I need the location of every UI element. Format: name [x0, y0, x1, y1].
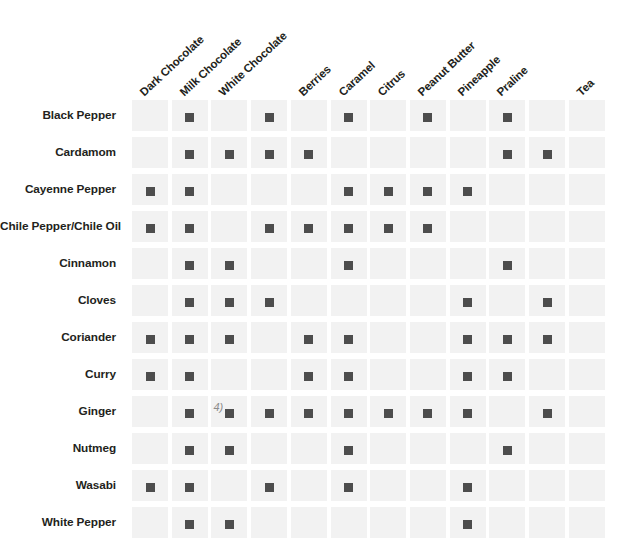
matrix-cell [291, 433, 327, 464]
matrix-cell [172, 470, 208, 501]
row-label-wasabi: Wasabi [0, 470, 124, 501]
pairing-mark-icon [304, 372, 313, 381]
matrix-cell [291, 322, 327, 353]
matrix-cell [172, 359, 208, 390]
matrix-cell [489, 433, 525, 464]
table-row: Cloves [0, 285, 632, 322]
matrix-cell [331, 248, 367, 279]
matrix-cell [331, 322, 367, 353]
table-row: Cinnamon [0, 248, 632, 285]
matrix-cell [370, 433, 406, 464]
matrix-cell [370, 211, 406, 242]
pairing-mark-icon [543, 150, 552, 159]
matrix-cell [172, 396, 208, 427]
matrix-cell [489, 137, 525, 168]
table-row: Curry [0, 359, 632, 396]
matrix-cell [489, 507, 525, 538]
pairing-mark-icon [225, 335, 234, 344]
matrix-cell [569, 359, 605, 390]
matrix-cell [211, 470, 247, 501]
table-row: Cardamom [0, 137, 632, 174]
pairing-mark-icon [304, 224, 313, 233]
ink-artifact-icon: 4) [213, 402, 225, 412]
matrix-cell [291, 470, 327, 501]
matrix-cell [251, 433, 287, 464]
matrix-cell [172, 285, 208, 316]
row-track [132, 248, 608, 279]
matrix-cell [370, 174, 406, 205]
matrix-cell [410, 396, 446, 427]
pairing-mark-icon [344, 372, 353, 381]
matrix-cell [529, 285, 565, 316]
matrix-cell [172, 211, 208, 242]
column-header-caramel: Caramel [337, 59, 377, 98]
pairing-mark-icon [225, 409, 234, 418]
pairing-mark-icon [225, 298, 234, 307]
pairing-mark-icon [543, 409, 552, 418]
pairing-mark-icon [463, 372, 472, 381]
matrix-cell [529, 174, 565, 205]
matrix-cell [211, 248, 247, 279]
matrix-cell [132, 433, 168, 464]
matrix-cell [370, 137, 406, 168]
matrix-cell [370, 507, 406, 538]
pairing-mark-icon [543, 335, 552, 344]
matrix-cell [529, 433, 565, 464]
pairing-mark-icon [344, 446, 353, 455]
pairing-mark-icon [185, 483, 194, 492]
matrix-cell [211, 285, 247, 316]
matrix-cell [331, 211, 367, 242]
matrix-cell [529, 359, 565, 390]
matrix-cell [172, 137, 208, 168]
matrix-cell [410, 507, 446, 538]
matrix-cell [211, 174, 247, 205]
matrix-cell [291, 100, 327, 131]
matrix-cell [410, 433, 446, 464]
matrix-cell [132, 211, 168, 242]
matrix-cell [370, 322, 406, 353]
table-row: Black Pepper [0, 100, 632, 137]
matrix-cell [132, 248, 168, 279]
matrix-cell [370, 285, 406, 316]
matrix-cell [450, 174, 486, 205]
matrix-cell [172, 433, 208, 464]
matrix-cell [489, 322, 525, 353]
matrix-cell [331, 174, 367, 205]
row-label-cloves: Cloves [0, 285, 124, 316]
matrix-cell [569, 137, 605, 168]
matrix-cell [132, 100, 168, 131]
matrix-cell [132, 137, 168, 168]
matrix-cell [529, 137, 565, 168]
table-row: Coriander [0, 322, 632, 359]
matrix-cell [450, 285, 486, 316]
matrix-cell [450, 100, 486, 131]
matrix-cell [529, 248, 565, 279]
pairing-mark-icon [185, 372, 194, 381]
matrix-cell [132, 359, 168, 390]
matrix-cell [172, 248, 208, 279]
matrix-cell [132, 470, 168, 501]
matrix-cell [569, 211, 605, 242]
matrix-cell [251, 174, 287, 205]
pairing-mark-icon [185, 187, 194, 196]
matrix-cell [370, 248, 406, 279]
matrix-cell [211, 507, 247, 538]
matrix-cell [132, 174, 168, 205]
matrix-cell [489, 211, 525, 242]
matrix-cell [529, 322, 565, 353]
table-row: Nutmeg [0, 433, 632, 470]
pairing-mark-icon [265, 483, 274, 492]
pairing-mark-icon [384, 409, 393, 418]
pairing-mark-icon [344, 483, 353, 492]
pairing-mark-icon [344, 187, 353, 196]
matrix-cell [291, 396, 327, 427]
row-label-nutmeg: Nutmeg [0, 433, 124, 464]
matrix-cell [410, 248, 446, 279]
pairing-mark-icon [265, 409, 274, 418]
matrix-cell [489, 100, 525, 131]
matrix-cell [211, 100, 247, 131]
pairing-mark-icon [146, 335, 155, 344]
matrix-cell [489, 396, 525, 427]
row-track [132, 174, 608, 205]
table-row: Chile Pepper/Chile Oil [0, 211, 632, 248]
